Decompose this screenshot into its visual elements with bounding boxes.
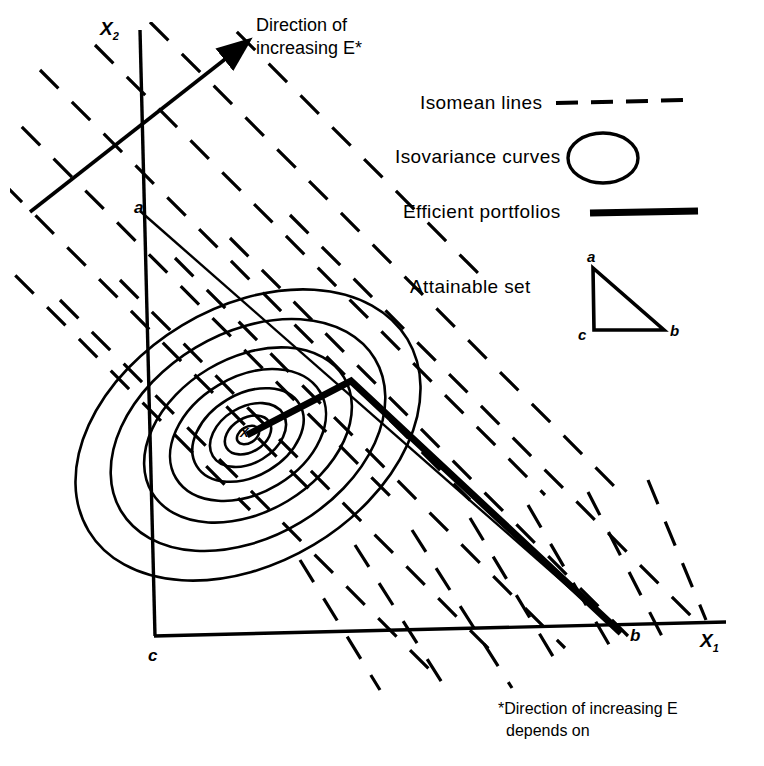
direction-arrow-line2: increasing E* bbox=[256, 37, 362, 60]
legend-triangle-label-c: c bbox=[578, 326, 586, 343]
legend-thick-line-symbol bbox=[590, 211, 698, 213]
legend-triangle-symbol bbox=[593, 268, 664, 330]
footnote-line1: *Direction of increasing E bbox=[498, 698, 678, 720]
legend-triangle-label-b: b bbox=[670, 322, 679, 339]
direction-arrow-label: Direction of increasing E* bbox=[256, 14, 362, 59]
legend-item-attainable-set: Attainable set bbox=[410, 276, 531, 298]
footnote-line2: depends on bbox=[498, 720, 678, 742]
point-label-a: a bbox=[134, 198, 143, 218]
legend-item-efficient-portfolios: Efficient portfolios bbox=[403, 201, 561, 223]
point-label-b: b bbox=[630, 626, 640, 646]
direction-arrow-line1: Direction of bbox=[256, 14, 362, 37]
portfolio-diagram-svg bbox=[0, 0, 764, 766]
legend-symbols bbox=[556, 100, 698, 330]
y-axis-label: X2 bbox=[100, 18, 119, 42]
point-label-center: X bbox=[240, 425, 249, 440]
legend-dashed-symbol bbox=[556, 100, 688, 103]
point-label-c: c bbox=[148, 646, 157, 666]
legend-item-isomean-lines: Isomean lines bbox=[420, 92, 542, 114]
direction-arrow bbox=[30, 42, 247, 212]
x-axis-label: X1 bbox=[700, 630, 719, 654]
legend-item-isovariance-curves: Isovariance curves bbox=[395, 146, 561, 168]
footnote: *Direction of increasing E depends on bbox=[498, 698, 678, 743]
legend-ellipse-symbol bbox=[568, 133, 638, 183]
legend-triangle-label-a: a bbox=[587, 248, 595, 265]
